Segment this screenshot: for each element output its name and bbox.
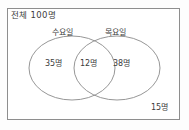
count-outside-sets: 15명 — [151, 104, 168, 112]
count-wednesday-only: 35명 — [45, 60, 62, 68]
count-thursday-only: 38명 — [113, 60, 130, 68]
set-label-wednesday: 수요일 — [52, 29, 73, 37]
universal-set-label: 전체 100명 — [11, 11, 56, 20]
count-intersection: 12명 — [80, 60, 97, 68]
set-label-thursday: 목요일 — [105, 29, 126, 37]
venn-diagram-figure: 전체 100명 수요일 목요일 35명 12명 38명 15명 — [0, 0, 189, 130]
